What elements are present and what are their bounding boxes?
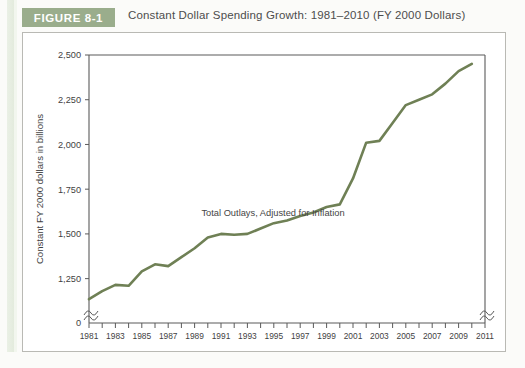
series-annotation-label: Total Outlays, Adjusted for Inflation — [201, 208, 344, 218]
y-tick-label: 1,750 — [58, 185, 81, 195]
x-axis-break-icon — [480, 311, 494, 320]
y-zero-label: 0 — [76, 318, 81, 328]
x-tick-label: 2011 — [476, 331, 494, 341]
x-tick-label: 1991 — [212, 331, 231, 341]
x-tick-label: 1985 — [132, 331, 151, 341]
y-tick-label: 1,250 — [58, 274, 81, 284]
y-tick-label: 2,000 — [58, 140, 81, 150]
x-tick-label: 2003 — [370, 331, 389, 341]
x-tick-label: 1987 — [159, 331, 178, 341]
left-accent-stripe-inner — [14, 0, 17, 352]
x-tick-label: 1989 — [185, 331, 204, 341]
y-tick-label: 2,250 — [58, 95, 81, 105]
figure-title: Constant Dollar Spending Growth: 1981–20… — [128, 9, 465, 21]
data-series-total-outlays — [89, 64, 472, 299]
line-chart: 1,2501,5001,7502,0002,2502,5000198119831… — [23, 33, 503, 349]
x-tick-label: 2007 — [423, 331, 442, 341]
y-tick-label: 2,500 — [58, 50, 81, 60]
x-tick-label: 1999 — [317, 331, 336, 341]
x-tick-label: 2001 — [344, 331, 363, 341]
figure-page: FIGURE 8-1 Constant Dollar Spending Grow… — [0, 0, 525, 368]
y-tick-label: 1,500 — [58, 229, 81, 239]
y-axis-title: Constant FY 2000 dollars in billions — [34, 114, 45, 264]
x-tick-label: 1997 — [291, 331, 310, 341]
x-tick-label: 2005 — [396, 331, 415, 341]
x-tick-label: 2009 — [449, 331, 468, 341]
x-tick-label: 1981 — [80, 331, 99, 341]
x-tick-label: 1993 — [238, 331, 257, 341]
figure-frame: 1,2501,5001,7502,0002,2502,5000198119831… — [22, 32, 506, 352]
left-accent-stripe — [7, 0, 14, 352]
x-tick-label: 1995 — [264, 331, 283, 341]
y-axis-break-icon — [84, 311, 98, 320]
figure-number-badge: FIGURE 8-1 — [22, 8, 115, 27]
x-tick-label: 1983 — [106, 331, 125, 341]
